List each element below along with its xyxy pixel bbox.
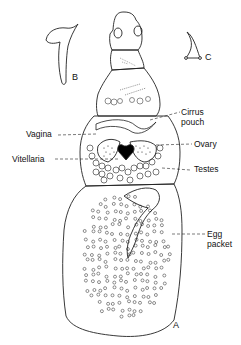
egg <box>133 203 136 206</box>
sucker-right <box>134 26 142 36</box>
egg <box>111 294 114 297</box>
egg <box>98 254 101 257</box>
egg <box>149 240 152 243</box>
egg <box>147 296 150 299</box>
egg <box>114 251 117 254</box>
egg <box>118 245 121 248</box>
egg <box>146 287 149 290</box>
egg <box>153 230 156 233</box>
egg <box>126 289 129 292</box>
egg <box>104 226 107 229</box>
egg <box>154 294 157 297</box>
egg <box>160 254 163 257</box>
egg <box>92 245 95 248</box>
egg <box>126 267 129 270</box>
egg <box>114 267 117 270</box>
egg <box>146 273 149 276</box>
egg <box>128 314 131 317</box>
egg <box>84 238 87 241</box>
panel-label-c: C <box>205 52 212 62</box>
egg <box>97 293 100 296</box>
egg <box>91 280 94 283</box>
egg <box>97 272 100 275</box>
egg <box>98 281 101 284</box>
egg <box>140 273 143 276</box>
egg <box>100 310 103 313</box>
egg <box>83 253 86 256</box>
egg <box>121 239 124 242</box>
egg <box>104 240 107 243</box>
egg <box>126 296 129 299</box>
egg <box>133 301 136 304</box>
egg <box>120 315 123 318</box>
egg <box>99 226 102 229</box>
egg <box>83 267 86 270</box>
egg <box>90 294 93 297</box>
egg <box>139 310 142 313</box>
egg <box>93 289 96 292</box>
egg <box>140 231 143 234</box>
egg <box>121 309 124 312</box>
egg <box>91 258 94 261</box>
egg <box>153 287 156 290</box>
panel-label-a: A <box>173 320 179 330</box>
egg <box>133 295 136 298</box>
egg <box>106 279 109 282</box>
egg <box>107 307 110 310</box>
egg <box>98 230 101 233</box>
egg <box>86 258 89 261</box>
egg <box>135 273 138 276</box>
egg <box>98 266 101 269</box>
egg <box>148 301 151 304</box>
egg <box>97 210 100 213</box>
egg <box>92 216 95 219</box>
egg <box>140 252 143 255</box>
label-vitellaria: Vitellaria <box>12 155 44 164</box>
label-vagina: Vagina <box>26 130 52 139</box>
egg <box>114 246 117 249</box>
label-egg-packet-line2: packet <box>207 240 232 249</box>
egg <box>154 212 157 215</box>
egg <box>104 217 107 220</box>
egg <box>128 300 131 303</box>
egg <box>119 219 122 222</box>
egg <box>119 211 122 214</box>
egg <box>154 261 157 264</box>
egg <box>154 275 157 278</box>
ovary-left <box>97 139 120 162</box>
egg <box>139 260 142 263</box>
egg <box>104 198 107 201</box>
egg <box>119 233 122 236</box>
egg <box>126 272 129 275</box>
developing-proglottid <box>97 68 161 116</box>
cirrus-pouch <box>96 120 156 134</box>
egg <box>139 220 142 223</box>
egg <box>113 218 116 221</box>
egg <box>98 300 101 303</box>
egg <box>92 230 95 233</box>
egg <box>160 231 163 234</box>
egg <box>83 230 86 233</box>
egg <box>121 267 124 270</box>
sucker-left <box>114 28 122 38</box>
egg <box>134 260 137 263</box>
egg <box>92 240 95 243</box>
egg <box>134 286 137 289</box>
egg <box>133 210 136 213</box>
egg <box>147 225 150 228</box>
egg <box>111 302 114 305</box>
egg <box>125 217 128 220</box>
egg <box>120 259 123 262</box>
egg <box>105 231 108 234</box>
egg <box>168 253 171 256</box>
egg <box>111 223 114 226</box>
egg <box>85 274 88 277</box>
egg <box>154 281 157 284</box>
egg <box>147 266 150 269</box>
egg <box>105 275 108 278</box>
egg <box>126 258 129 261</box>
egg <box>104 294 107 297</box>
egg <box>154 251 157 254</box>
egg <box>167 245 170 248</box>
panel-label-b: B <box>72 72 78 82</box>
